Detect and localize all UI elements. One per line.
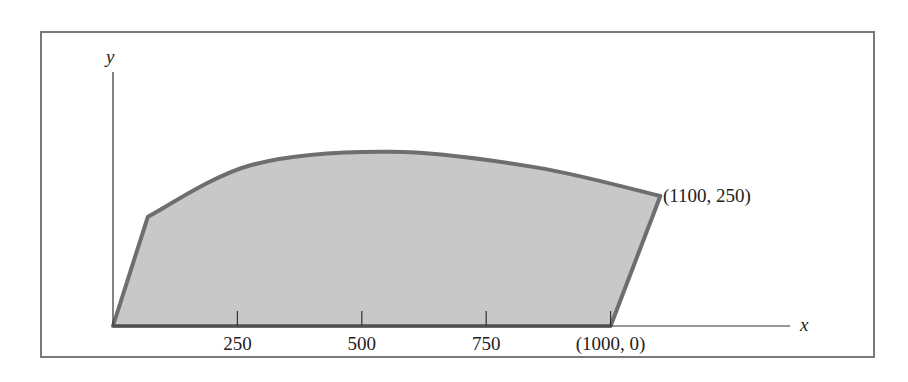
y-axis-label: y (104, 46, 115, 67)
x-tick-label-500: 500 (348, 333, 377, 354)
region-diagram: y x 250500750(1000, 0) (1100, 250) (0, 0, 908, 382)
x-tick-label-1000: (1000, 0) (576, 333, 646, 355)
x-axis-label: x (799, 314, 809, 335)
x-tick-label-750: 750 (472, 333, 501, 354)
x-tick-label-250: 250 (223, 333, 252, 354)
point-label-1100-250: (1100, 250) (663, 185, 751, 207)
shaded-region (113, 152, 660, 326)
